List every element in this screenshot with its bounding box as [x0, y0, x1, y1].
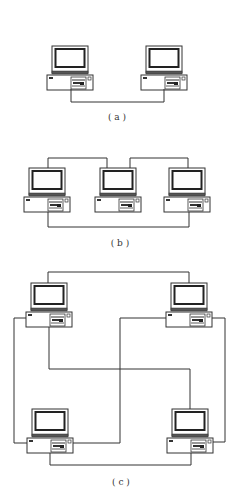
panel-c: ( c )	[14, 272, 225, 487]
computer-icon	[95, 168, 141, 212]
cable-line	[71, 89, 164, 102]
panel-label-b: ( b )	[111, 238, 130, 248]
cable-line	[130, 158, 188, 168]
panel-label-c: ( c )	[112, 477, 130, 487]
cable-line	[50, 453, 191, 465]
computer-icon	[26, 283, 72, 327]
cable-line	[48, 272, 189, 283]
cable-line	[73, 318, 166, 443]
computer-icon	[164, 168, 210, 212]
cable-line	[14, 318, 27, 443]
panel-label-a: ( a )	[108, 112, 126, 122]
panel-b: ( b )	[24, 158, 210, 248]
computer-icon	[27, 409, 73, 453]
computer-icon	[167, 409, 213, 453]
cable-line	[48, 212, 189, 227]
panel-a: ( a )	[47, 46, 187, 122]
network-topology-diagram: ( a ) ( b ) ( c )	[0, 0, 242, 504]
computer-icon	[24, 168, 70, 212]
cable-line	[48, 158, 107, 168]
computer-icon	[47, 46, 93, 90]
cable-line	[212, 318, 225, 442]
computer-icon	[141, 46, 187, 90]
computer-icon	[166, 283, 212, 327]
